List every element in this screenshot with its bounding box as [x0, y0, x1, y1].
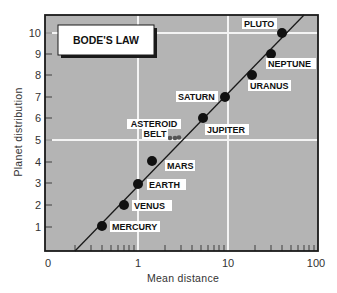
label-uranus: URANUS: [250, 81, 289, 91]
title-box: BODE'S LAW: [58, 25, 157, 58]
y-axis-title: Planet distribution: [12, 87, 24, 176]
point-pluto: [277, 28, 287, 38]
label-jupiter: JUPITER: [207, 125, 246, 135]
label-saturn: SATURN: [178, 92, 215, 102]
bodes-law-chart: BODE'S LAW MERCURY VENUS EARTH MARS ASTE…: [0, 0, 337, 293]
label-neptune: NEPTUNE: [268, 59, 311, 69]
svg-text:7: 7: [35, 91, 41, 103]
point-earth: [133, 179, 143, 189]
point-jupiter: [198, 113, 208, 123]
svg-text:3: 3: [35, 177, 41, 189]
svg-text:8: 8: [35, 69, 41, 81]
x-tick-labels: 0 1 10 100: [45, 257, 325, 269]
point-neptune: [266, 49, 276, 59]
point-venus: [119, 200, 129, 210]
svg-text:1: 1: [35, 221, 41, 233]
chart-title: BODE'S LAW: [73, 34, 139, 46]
svg-text:1: 1: [135, 257, 141, 269]
svg-text:6: 6: [35, 112, 41, 124]
point-uranus: [247, 70, 257, 80]
y-tick-labels: 1 2 3 4 5 6 7 8 9 10: [29, 27, 41, 233]
svg-text:4: 4: [35, 156, 41, 168]
svg-text:100: 100: [307, 257, 325, 269]
label-earth: EARTH: [149, 180, 180, 190]
label-pluto: PLUTO: [244, 19, 274, 29]
label-mars: MARS: [167, 161, 194, 171]
svg-text:0: 0: [45, 257, 51, 269]
point-asteroid-belt: [168, 135, 182, 140]
svg-text:2: 2: [35, 199, 41, 211]
svg-text:10: 10: [222, 257, 234, 269]
label-mercury: MERCURY: [112, 222, 157, 232]
point-saturn: [220, 92, 230, 102]
x-axis-title: Mean distance: [147, 272, 219, 284]
point-mercury: [97, 221, 107, 231]
label-asteroid-line1: ASTEROID: [131, 119, 178, 129]
svg-text:5: 5: [35, 134, 41, 146]
label-venus: VENUS: [134, 201, 165, 211]
svg-text:10: 10: [29, 27, 41, 39]
label-asteroid-line2: BELT: [144, 129, 167, 139]
point-mars: [147, 156, 157, 166]
svg-text:9: 9: [35, 48, 41, 60]
